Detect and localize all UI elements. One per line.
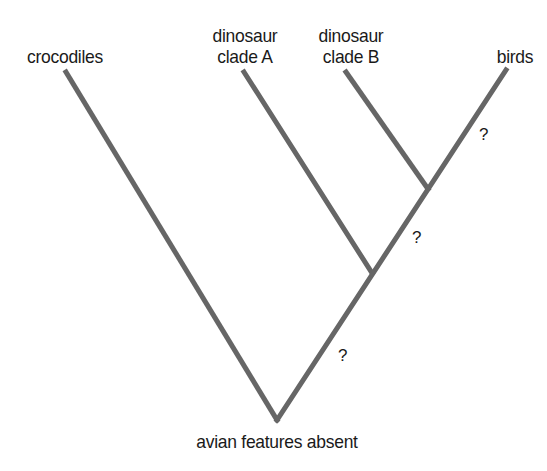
taxon-label-clade-b: dinosaur clade B <box>310 25 393 67</box>
branch-clade-a <box>244 72 372 273</box>
taxon-label-birds: birds <box>487 46 542 67</box>
taxon-name-line1: dinosaur <box>310 25 393 46</box>
branch-crocodiles <box>66 72 277 420</box>
taxon-name: birds <box>487 46 542 67</box>
taxon-name-line2: clade A <box>204 46 287 67</box>
unknown-marker-birds: ? <box>479 126 488 144</box>
branch-main-to-birds <box>277 70 506 420</box>
taxon-name-line1: dinosaur <box>204 25 287 46</box>
taxon-label-clade-a: dinosaur clade A <box>204 25 287 67</box>
taxon-label-crocodiles: crocodiles <box>14 46 115 67</box>
unknown-marker-clade-b-node: ? <box>412 229 421 247</box>
cladogram: crocodiles dinosaur clade A dinosaur cla… <box>0 0 547 471</box>
taxon-name: crocodiles <box>14 46 115 67</box>
root-label: avian features absent <box>169 431 384 452</box>
unknown-marker-clade-a-node: ? <box>338 347 347 365</box>
cladogram-branches <box>0 0 547 471</box>
branch-clade-b <box>346 72 428 189</box>
taxon-name-line2: clade B <box>310 46 393 67</box>
